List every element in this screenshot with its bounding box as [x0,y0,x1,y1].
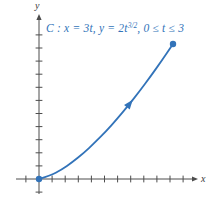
parametric-curve [39,44,173,179]
equation-suffix: , 0 ≤ t ≤ 3 [137,22,184,34]
equation-prefix: C : x = 3t, y = 2t [46,22,128,34]
equation-exponent: 3/2 [128,21,138,30]
parametric-curve-figure: C : x = 3t, y = 2t3/2, 0 ≤ t ≤ 3 x y [0,0,219,207]
x-axis-arrowhead [192,176,198,181]
curve-equation-label: C : x = 3t, y = 2t3/2, 0 ≤ t ≤ 3 [46,21,206,35]
y-axis-arrowhead [36,14,41,20]
curve-end-point [170,41,176,47]
curve-start-point [36,176,42,182]
x-axis-label: x [201,173,205,184]
y-axis-label: y [35,0,39,11]
